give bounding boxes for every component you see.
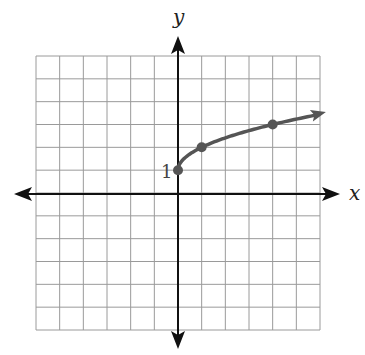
- x-axis-label: x: [349, 181, 360, 205]
- data-point: [173, 165, 183, 175]
- data-point: [268, 120, 278, 130]
- coordinate-plane: x y 1: [0, 0, 365, 355]
- y-axis-label: y: [172, 5, 185, 29]
- data-point: [197, 142, 207, 152]
- y-tick-label-1: 1: [161, 161, 172, 182]
